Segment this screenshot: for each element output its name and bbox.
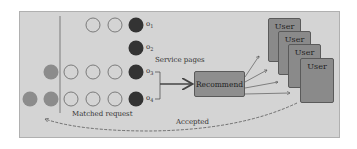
- queue-row-3: [44, 65, 144, 80]
- matched-requests-label: Matched request: [72, 110, 132, 118]
- output-o1: [129, 18, 144, 33]
- label-o4: o4: [146, 94, 153, 103]
- queue-row-2: [129, 41, 144, 56]
- label-o2: o2: [146, 43, 153, 52]
- queue-row-1: [86, 18, 144, 33]
- label-o3: o3: [146, 67, 153, 76]
- recommend-box: Recommend: [194, 71, 245, 97]
- output-o2: [129, 41, 144, 56]
- output-o4: [129, 92, 144, 107]
- user-card-4: User: [300, 58, 334, 103]
- recommend-label: Recommend: [196, 80, 243, 89]
- accepted-label: Accepted: [176, 118, 209, 126]
- queue-row-4: [23, 92, 144, 107]
- label-o1: o1: [146, 20, 153, 29]
- service-pages-label: Service pages: [155, 56, 205, 64]
- service-bracket: [155, 72, 160, 99]
- output-o3: [129, 65, 144, 80]
